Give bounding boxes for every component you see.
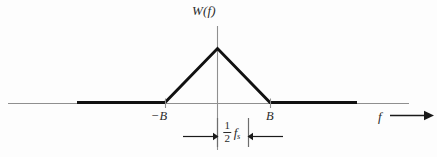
bandwidth-annotation: 1 2 fs bbox=[223, 120, 240, 144]
tick-label-negative-b: −B bbox=[151, 110, 167, 123]
dimension-arrow-right-icon bbox=[248, 133, 284, 140]
dimension-arrow-left-icon bbox=[183, 133, 219, 140]
tick-label-positive-b: B bbox=[266, 110, 274, 123]
figure-canvas bbox=[0, 0, 437, 157]
fraction-denominator: 2 bbox=[224, 133, 232, 145]
x-axis-title: f bbox=[378, 110, 382, 123]
one-half-fraction: 1 2 bbox=[223, 120, 231, 144]
y-axis-title: W(f) bbox=[192, 4, 216, 17]
fraction-numerator: 1 bbox=[224, 120, 232, 132]
x-axis-arrow-icon bbox=[390, 111, 434, 120]
sampling-frequency-symbol: fs bbox=[234, 126, 241, 139]
sampling-frequency-subscript: s bbox=[237, 131, 240, 141]
spectrum-figure: W(f) −B B f 1 2 fs bbox=[0, 0, 437, 157]
